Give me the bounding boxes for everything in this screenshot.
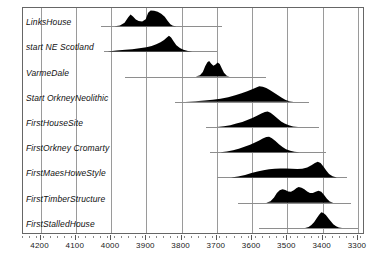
- axis-minor-tick: [50, 236, 51, 238]
- axis-tick-label-3500: 3500: [277, 241, 296, 250]
- range-line: [217, 177, 347, 178]
- axis-tick-3500: [286, 235, 287, 240]
- axis-minor-tick: [290, 236, 291, 238]
- axis-minor-tick: [234, 236, 235, 238]
- gridline-3300: [358, 8, 359, 233]
- gridline-3400: [323, 8, 324, 233]
- row-label-firststalledhouse: FirstStalledHouse: [26, 219, 95, 229]
- axis-minor-tick: [43, 236, 44, 238]
- axis-minor-tick: [121, 236, 122, 238]
- axis-minor-tick: [353, 236, 354, 238]
- axis-minor-tick: [29, 236, 30, 238]
- axis-minor-tick: [191, 236, 192, 238]
- axis-tick-label-3900: 3900: [136, 241, 155, 250]
- axis-minor-tick: [64, 236, 65, 238]
- axis-tick-4000: [110, 235, 111, 240]
- axis-minor-tick: [255, 236, 256, 238]
- range-line: [104, 51, 217, 52]
- row-label-firsttimberstructure: FirstTimberStructure: [26, 194, 105, 204]
- axis-minor-tick: [276, 236, 277, 238]
- axis-minor-tick: [135, 236, 136, 238]
- gridline-3900: [146, 8, 147, 233]
- axis-minor-tick: [269, 236, 270, 238]
- range-line: [206, 127, 319, 128]
- axis-minor-tick: [170, 236, 171, 238]
- range-line: [210, 152, 326, 153]
- axis-minor-tick: [346, 236, 347, 238]
- gridline-3600: [252, 8, 253, 233]
- gridline-3700: [217, 8, 218, 233]
- axis-minor-tick: [297, 236, 298, 238]
- axis-minor-tick: [156, 236, 157, 238]
- axis-minor-tick: [226, 236, 227, 238]
- axis-minor-tick: [262, 236, 263, 238]
- axis-minor-tick: [304, 236, 305, 238]
- density-fill: [185, 86, 294, 102]
- axis-minor-tick: [360, 236, 361, 238]
- axis-minor-tick: [71, 236, 72, 238]
- axis-minor-tick: [85, 236, 86, 238]
- range-line: [101, 26, 223, 27]
- axis-minor-tick: [198, 236, 199, 238]
- axis-minor-tick: [149, 236, 150, 238]
- density-fill: [231, 162, 337, 178]
- axis-minor-tick: [22, 236, 23, 238]
- axis-minor-tick: [36, 236, 37, 238]
- axis-tick-label-3600: 3600: [242, 241, 261, 250]
- axis-tick-label-3800: 3800: [171, 241, 190, 250]
- axis-minor-tick: [142, 236, 143, 238]
- row-label-firstorkney-cromarty: FirstOrkney Cromarty: [26, 143, 109, 153]
- axis-tick-3600: [251, 235, 252, 240]
- row-label-linkshouse: LinksHouse: [26, 17, 71, 27]
- row-label-firsthousesite: FirstHouseSite: [26, 118, 83, 128]
- axis-tick-3400: [322, 235, 323, 240]
- gridline-4000: [111, 8, 112, 233]
- axis-minor-tick: [107, 236, 108, 238]
- density-fill: [108, 36, 193, 52]
- radiocarbon-probability-plot: 4200410040003900380037003600350034003300…: [0, 0, 380, 257]
- axis-minor-tick: [93, 236, 94, 238]
- range-line: [175, 102, 309, 103]
- axis-minor-tick: [114, 236, 115, 238]
- axis-minor-tick: [248, 236, 249, 238]
- row-label-firstmaeshowestyle: FirstMaesHoweStyle: [26, 168, 106, 178]
- axis-tick-3800: [181, 235, 182, 240]
- axis-minor-tick: [163, 236, 164, 238]
- density-fill: [196, 61, 230, 77]
- axis-minor-tick: [241, 236, 242, 238]
- row-label-start-ne-scotland: start NE Scotland: [26, 42, 94, 52]
- axis-tick-4100: [75, 235, 76, 240]
- axis-minor-tick: [283, 236, 284, 238]
- range-line: [125, 77, 266, 78]
- row-label-start-orkneyneolithic: Start OrkneyNeolithic: [26, 93, 108, 103]
- axis-minor-tick: [311, 236, 312, 238]
- axis-tick-3300: [357, 235, 358, 240]
- axis-minor-tick: [318, 236, 319, 238]
- axis-minor-tick: [177, 236, 178, 238]
- axis-tick-label-3700: 3700: [207, 241, 226, 250]
- axis-minor-tick: [57, 236, 58, 238]
- axis-minor-tick: [212, 236, 213, 238]
- range-line: [259, 228, 358, 229]
- gridline-3800: [182, 8, 183, 233]
- axis-minor-tick: [184, 236, 185, 238]
- axis-tick-label-4000: 4000: [101, 241, 120, 250]
- axis-tick-3900: [145, 235, 146, 240]
- axis-tick-label-4100: 4100: [66, 241, 85, 250]
- axis-tick-label-4200: 4200: [30, 241, 49, 250]
- density-fill: [217, 111, 298, 127]
- axis-minor-tick: [128, 236, 129, 238]
- gridline-3500: [287, 8, 288, 233]
- axis-minor-tick: [78, 236, 79, 238]
- axis-minor-tick: [339, 236, 340, 238]
- axis-tick-label-3300: 3300: [348, 241, 367, 250]
- axis-minor-tick: [205, 236, 206, 238]
- axis-minor-tick: [219, 236, 220, 238]
- axis-tick-3700: [216, 235, 217, 240]
- row-label-varmedale: VarmeDale: [26, 68, 69, 78]
- range-line: [238, 203, 351, 204]
- axis-tick-4200: [40, 235, 41, 240]
- axis-minor-tick: [332, 236, 333, 238]
- axis-minor-tick: [325, 236, 326, 238]
- axis-tick-label-3400: 3400: [312, 241, 331, 250]
